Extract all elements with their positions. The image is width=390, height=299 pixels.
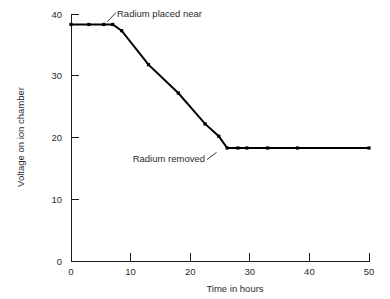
y-tick-label-10: 10 xyxy=(51,194,62,205)
y-tick-label-40: 40 xyxy=(51,9,62,20)
data-point-marker xyxy=(204,122,207,125)
radium-placed-label: Radium placed near xyxy=(117,8,202,19)
x-tick-label-50: 50 xyxy=(364,266,375,277)
radium-removed-label: Radium removed xyxy=(133,153,205,164)
x-axis-tick-labels: 0 10 20 30 40 50 xyxy=(68,266,374,277)
data-point-marker xyxy=(111,23,114,26)
annotation-radium-placed: Radium placed near xyxy=(108,8,203,22)
data-point-marker xyxy=(226,146,229,149)
x-axis-title: Time in hours xyxy=(206,283,263,294)
y-tick-label-0: 0 xyxy=(57,256,62,267)
y-axis-tick-labels: 0 10 20 30 40 xyxy=(51,9,62,267)
annotation-radium-removed: Radium removed xyxy=(133,153,217,165)
x-tick-label-0: 0 xyxy=(68,266,73,277)
data-point-marker xyxy=(296,146,299,149)
x-tick-label-40: 40 xyxy=(304,266,315,277)
data-point-marker xyxy=(120,29,123,32)
x-tick-label-30: 30 xyxy=(245,266,256,277)
y-axis-ticks xyxy=(71,14,79,261)
data-line-voltage xyxy=(71,25,369,149)
data-point-markers xyxy=(69,23,370,150)
data-point-marker xyxy=(367,146,370,149)
radium-removed-leader-line xyxy=(207,153,217,160)
data-point-marker xyxy=(102,23,105,26)
y-axis-title: Voltage on ion chamber xyxy=(15,87,26,187)
data-point-marker xyxy=(217,135,220,138)
y-tick-label-20: 20 xyxy=(51,132,62,143)
data-point-marker xyxy=(147,63,150,66)
data-point-marker xyxy=(69,23,72,26)
x-axis-ticks xyxy=(71,253,369,261)
x-tick-label-10: 10 xyxy=(125,266,136,277)
data-point-marker xyxy=(236,146,239,149)
data-point-marker xyxy=(266,146,269,149)
data-point-marker xyxy=(177,91,180,94)
data-point-marker xyxy=(87,23,90,26)
data-point-marker xyxy=(245,146,248,149)
chart-figure: 0 10 20 30 40 0 10 20 30 40 50 Time in h… xyxy=(0,0,390,299)
y-tick-label-30: 30 xyxy=(51,70,62,81)
line-chart: 0 10 20 30 40 0 10 20 30 40 50 Time in h… xyxy=(0,0,390,299)
radium-placed-leader-line xyxy=(108,13,117,22)
x-tick-label-20: 20 xyxy=(185,266,196,277)
